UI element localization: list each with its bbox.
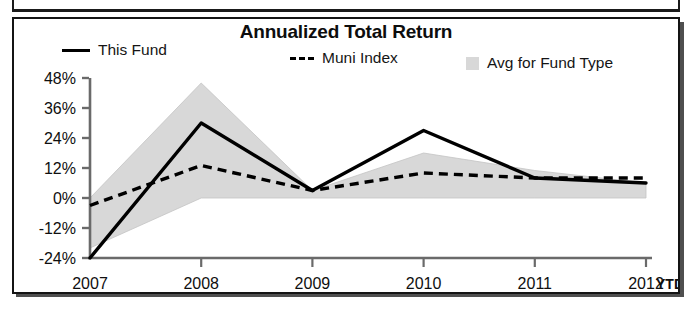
x-axis-tick-label: 2008: [183, 275, 219, 292]
y-axis-tick-label: 36%: [44, 100, 76, 117]
annualized-total-return-chart-panel: Annualized Total Return This Fund Muni I…: [12, 17, 680, 294]
avg-for-fund-type-band: [90, 83, 646, 248]
y-axis-tick-labels: 48%36%24%12%0%-12%-24%: [39, 70, 76, 267]
x-axis-tick-label: 2009: [295, 275, 331, 292]
chart-plot-area: 48%36%24%12%0%-12%-24% 20072008200920102…: [14, 19, 678, 292]
x-axis-tick-labels: 200720082009201020112012YTD: [72, 275, 678, 292]
adjacent-panel-fragment: [12, 0, 680, 12]
x-axis-tick-label: 2010: [406, 275, 442, 292]
y-axis-tick-label: 24%: [44, 130, 76, 147]
y-axis-tick-label: 0%: [53, 190, 76, 207]
y-axis-tick-label: 12%: [44, 160, 76, 177]
x-axis-tick-label: 2011: [518, 275, 553, 292]
y-axis-tick-label: -24%: [39, 250, 76, 267]
panel-shadow-bottom: [16, 294, 684, 297]
y-axis-tick-label: 48%: [44, 70, 76, 87]
y-axis-tick-label: -12%: [39, 220, 76, 237]
x-axis-ytd-label: YTD: [656, 276, 678, 292]
panel-shadow-right: [680, 22, 684, 297]
x-axis-tick-label: 2007: [72, 275, 108, 292]
